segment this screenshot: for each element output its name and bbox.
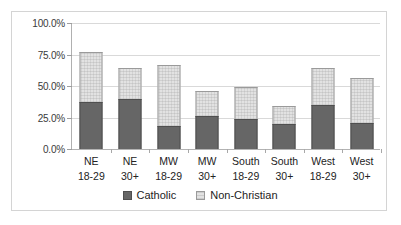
bar-series-group [72,23,380,149]
bar-slot[interactable] [149,23,188,149]
legend-item[interactable]: Catholic [123,189,177,201]
x-axis-category-label: NE18-29 [72,154,111,184]
x-axis-labels: NE18-29NE30+MW18-29MW30+South18-29South3… [72,154,380,188]
bar-segment-catholic[interactable] [234,119,257,149]
category-region: MW [159,155,178,167]
bar-segment-non-christian[interactable] [196,91,219,116]
bar-slot[interactable] [227,23,266,149]
category-region: MW [198,155,217,167]
bar-slot[interactable] [265,23,304,149]
bar-slot[interactable] [342,23,381,149]
x-axis-tick [342,149,343,153]
bar-segment-catholic[interactable] [118,99,141,149]
x-axis-category-label: NE30+ [111,154,150,184]
y-axis-tick [67,149,72,150]
x-axis-tick [227,149,228,153]
x-axis-tick [111,149,112,153]
gridline-0.0% [71,149,380,150]
stacked-bar[interactable] [196,91,219,149]
stacked-bar[interactable] [118,68,141,149]
chart-legend: CatholicNon-Christian [12,189,388,201]
bar-segment-catholic[interactable] [157,126,180,149]
bar-segment-catholic[interactable] [312,105,335,149]
bar-segment-non-christian[interactable] [312,68,335,105]
chart-frame: 0.0%25.0%50.0%75.0%100.0% NE18-29NE30+MW… [11,11,387,211]
bar-segment-non-christian[interactable] [118,68,141,98]
category-region: West [350,155,374,167]
y-axis-tick-label: 75.0% [38,49,65,60]
category-region: South [271,155,298,167]
x-axis-category-label: West18-29 [304,154,343,184]
x-axis-tick [381,149,382,153]
bar-slot[interactable] [188,23,227,149]
stacked-bar[interactable] [312,68,335,149]
bar-segment-catholic[interactable] [196,116,219,149]
x-axis-category-label: MW18-29 [149,154,188,184]
legend-swatch-icon [196,191,205,200]
category-age-group: 30+ [342,169,381,184]
category-age-group: 18-29 [227,169,266,184]
bar-segment-non-christian[interactable] [157,65,180,127]
stacked-bar[interactable] [80,52,103,149]
category-region: NE [84,155,99,167]
bar-segment-non-christian[interactable] [80,52,103,102]
x-axis-tick [149,149,150,153]
category-age-group: 30+ [188,169,227,184]
y-axis-tick-label: 50.0% [38,81,65,92]
bar-segment-non-christian[interactable] [234,87,257,119]
bar-slot[interactable] [304,23,343,149]
stacked-bar[interactable] [273,106,296,149]
legend-label: Catholic [137,189,177,201]
x-axis-tick [265,149,266,153]
bar-segment-catholic[interactable] [350,123,373,149]
bar-slot[interactable] [72,23,111,149]
stacked-bar[interactable] [234,87,257,149]
x-axis-category-label: South18-29 [227,154,266,184]
legend-swatch-icon [123,191,132,200]
y-axis-tick-label: 25.0% [38,112,65,123]
x-axis-category-label: West30+ [342,154,381,184]
category-age-group: 30+ [265,169,304,184]
category-region: West [311,155,335,167]
bar-segment-non-christian[interactable] [273,106,296,124]
x-axis-tick [304,149,305,153]
legend-label: Non-Christian [210,189,277,201]
x-axis-category-label: South30+ [265,154,304,184]
stacked-bar[interactable] [157,65,180,149]
stacked-bar[interactable] [350,78,373,149]
category-age-group: 18-29 [304,169,343,184]
x-axis-category-label: MW30+ [188,154,227,184]
bar-slot[interactable] [111,23,150,149]
y-axis-tick-label: 100.0% [32,18,65,29]
bar-segment-catholic[interactable] [273,124,296,149]
bar-segment-catholic[interactable] [80,102,103,149]
legend-item[interactable]: Non-Christian [196,189,277,201]
plot-area: 0.0%25.0%50.0%75.0%100.0% [71,23,380,149]
y-axis-tick-label: 0.0% [43,144,65,155]
category-age-group: 18-29 [72,169,111,184]
x-axis-tick [188,149,189,153]
category-region: South [232,155,259,167]
category-region: NE [123,155,138,167]
category-age-group: 30+ [111,169,150,184]
bar-segment-non-christian[interactable] [350,78,373,122]
category-age-group: 18-29 [149,169,188,184]
